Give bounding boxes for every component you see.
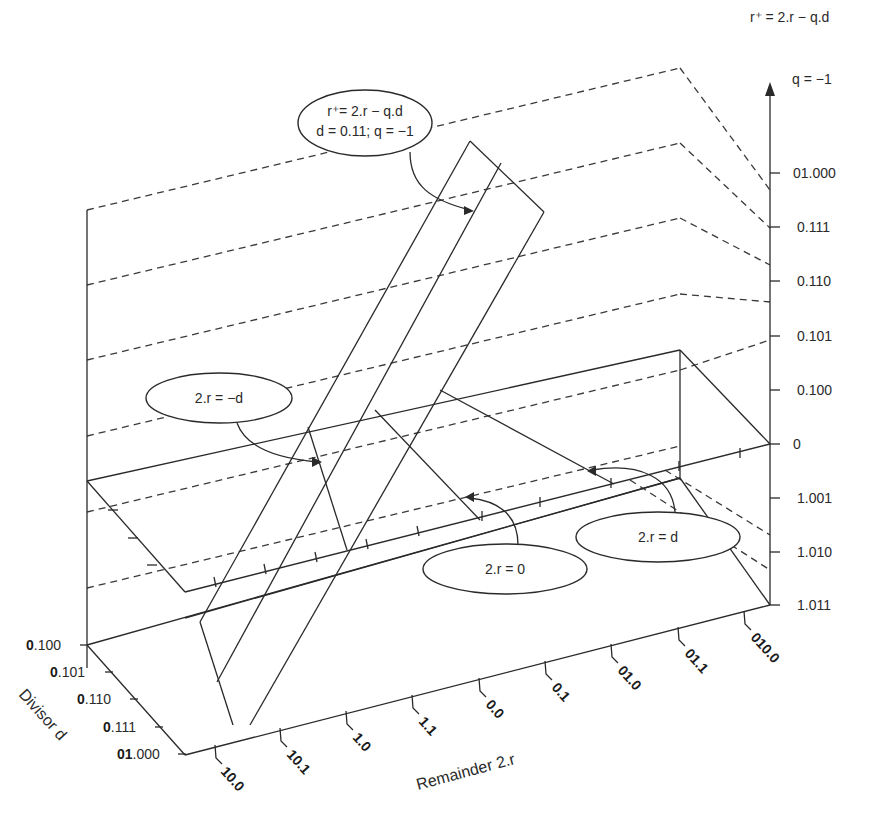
vertical-axis-tick-labels: 01.000 0.111 0.110 0.101 0.100 0 1.001 1… (793, 165, 836, 613)
callout-neg-d-label: 2.r = −d (195, 390, 243, 406)
svg-text:01.000: 01.000 (117, 746, 160, 762)
vertical-axis-title: r⁺ = 2.r − q.d (750, 9, 829, 25)
svg-text:0.101: 0.101 (50, 664, 85, 680)
division-plane-diagram: r⁺= 2.r − q.d d = 0.11; q = −1 2.r = −d … (0, 0, 870, 821)
callout-zero-label: 2.r = 0 (485, 561, 525, 577)
vertical-axis-ticks (770, 173, 780, 605)
remainder-axis-line (185, 605, 770, 755)
svg-text:1.1: 1.1 (416, 713, 441, 738)
svg-text:0.110: 0.110 (77, 691, 111, 707)
svg-text:1.011: 1.011 (797, 597, 831, 613)
tilted-plane (200, 141, 544, 725)
svg-text:0: 0 (793, 436, 801, 452)
svg-text:01.1: 01.1 (682, 645, 712, 676)
callout-plane-line1: r⁺= 2.r − q.d (327, 103, 402, 119)
svg-text:0.100: 0.100 (797, 382, 832, 398)
remainder-axis-title: Remainder 2.r (414, 750, 517, 793)
svg-text:0.100: 0.100 (26, 637, 61, 653)
divisor-axis-tick-labels: 0.100 0.101 0.110 0.111 01.000 (26, 637, 160, 762)
svg-text:10.0: 10.0 (218, 763, 248, 794)
vertical-axis-subtitle: q = −1 (792, 71, 832, 87)
arrow-up-icon (765, 82, 775, 96)
svg-text:0.110: 0.110 (797, 273, 831, 289)
back-wall-grid (87, 68, 770, 588)
svg-text:0.111: 0.111 (103, 719, 136, 735)
svg-text:0.1: 0.1 (549, 679, 574, 704)
remainder-axis-ticks (215, 611, 751, 764)
divisor-axis-title: Divisor d (16, 686, 70, 744)
svg-text:0.0: 0.0 (483, 696, 508, 721)
svg-text:01.0: 01.0 (615, 662, 645, 693)
intersection-lines (308, 390, 614, 550)
svg-text:10.1: 10.1 (284, 746, 314, 777)
callout-pos-d: 2.r = d (576, 466, 740, 562)
svg-text:010.0: 010.0 (748, 629, 783, 666)
callout-pos-d-label: 2.r = d (638, 529, 678, 545)
svg-text:1.0: 1.0 (350, 729, 375, 754)
svg-text:01.000: 01.000 (793, 165, 836, 181)
svg-text:0.101: 0.101 (797, 328, 832, 344)
callout-plane-line2: d = 0.11; q = −1 (316, 123, 414, 139)
svg-text:1.001: 1.001 (797, 490, 832, 506)
svg-text:1.010: 1.010 (797, 544, 832, 560)
svg-text:0.111: 0.111 (797, 219, 830, 235)
